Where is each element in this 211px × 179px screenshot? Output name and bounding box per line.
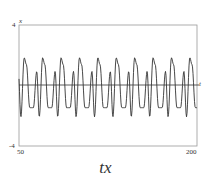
chart-plot (0, 0, 211, 179)
y-tick-top: 4 (12, 21, 16, 29)
y-axis-label: x (19, 17, 22, 25)
x-tick-left: 50 (17, 148, 24, 156)
y-tick-bottom: -4 (9, 142, 15, 150)
x-tick-right: 200 (186, 148, 197, 156)
x-axis-label: t (199, 80, 201, 88)
figure-caption: tx (0, 158, 211, 178)
series-line (19, 58, 197, 117)
plot-frame (19, 25, 197, 146)
